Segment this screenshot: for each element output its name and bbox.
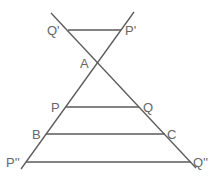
label-q-double: Q'' xyxy=(193,155,208,170)
label-p-prime: P' xyxy=(125,23,136,38)
label-p-double: P'' xyxy=(6,155,20,170)
label-a: A xyxy=(80,56,89,71)
label-q: Q xyxy=(143,100,153,115)
line-q-prime-to-q-double xyxy=(51,13,196,168)
label-b: B xyxy=(32,127,41,142)
label-c: C xyxy=(167,127,176,142)
label-q-prime: Q' xyxy=(47,23,60,38)
geometry-diagram: Q' P' A P Q B C P'' Q'' xyxy=(0,0,217,184)
label-p: P xyxy=(51,100,60,115)
line-p-prime-to-p-double xyxy=(21,12,134,169)
